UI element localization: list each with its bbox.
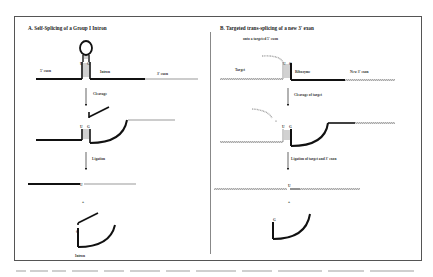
released-intron — [78, 213, 115, 247]
cleaved-target-complex — [220, 109, 395, 146]
target-ribozyme-complex — [220, 56, 395, 81]
precursor-rna — [36, 41, 198, 79]
released-ribozyme — [273, 214, 310, 239]
figure-caption-cropped — [14, 266, 422, 276]
ligated-target-exon — [214, 188, 360, 190]
cleaved-intermediate — [36, 107, 175, 143]
splicing-diagram — [0, 0, 433, 277]
